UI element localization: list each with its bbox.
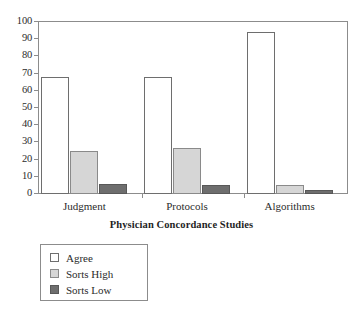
- legend-item[interactable]: Agree: [50, 250, 147, 265]
- y-axis-tick-label: 0: [27, 185, 32, 201]
- legend-item[interactable]: Sorts High: [50, 266, 147, 281]
- bar[interactable]: [305, 190, 333, 194]
- legend: Agree Sorts High Sorts Low: [40, 244, 148, 301]
- x-axis-title: Physician Concordance Studies: [0, 219, 363, 230]
- x-axis-tick-mark: [244, 194, 245, 198]
- y-axis-tick-label: 20: [22, 151, 32, 167]
- y-axis-tick-label: 50: [22, 99, 32, 115]
- bar[interactable]: [144, 77, 172, 194]
- bar-group: [144, 22, 230, 194]
- bar-chart-figure: 0102030405060708090100 JudgmentProtocols…: [0, 0, 363, 317]
- bar[interactable]: [247, 32, 275, 194]
- legend-label: Sorts High: [66, 267, 113, 281]
- bars-layer: [39, 22, 347, 194]
- bar-group: [247, 22, 333, 194]
- legend-label: Agree: [66, 251, 93, 265]
- x-axis-category-label: Protocols: [166, 198, 208, 214]
- bar[interactable]: [70, 151, 98, 194]
- y-axis-tick-label: 70: [22, 65, 32, 81]
- y-axis-tick-label: 80: [22, 47, 32, 63]
- bar[interactable]: [202, 185, 230, 194]
- y-axis-tick-label: 100: [17, 13, 32, 29]
- x-axis-category-label: Algorithms: [265, 198, 315, 214]
- y-axis: 0102030405060708090100: [0, 21, 38, 194]
- bar[interactable]: [173, 148, 201, 194]
- legend-label: Sorts Low: [66, 283, 112, 297]
- bar-group: [41, 22, 127, 194]
- bar[interactable]: [99, 184, 127, 194]
- bar[interactable]: [41, 77, 69, 194]
- y-axis-tick-label: 90: [22, 30, 32, 46]
- bar[interactable]: [276, 185, 304, 194]
- legend-swatch-sorts-high: [50, 269, 59, 278]
- legend-swatch-agree: [50, 253, 59, 262]
- legend-swatch-sorts-low: [50, 285, 59, 294]
- legend-item[interactable]: Sorts Low: [50, 282, 147, 297]
- x-axis-category-labels: JudgmentProtocolsAlgorithms: [39, 198, 347, 216]
- y-axis-tick-label: 30: [22, 133, 32, 149]
- y-axis-tick-label: 10: [22, 168, 32, 184]
- y-axis-tick-label: 40: [22, 116, 32, 132]
- x-axis-tick-mark: [142, 194, 143, 198]
- y-axis-tick-label: 60: [22, 82, 32, 98]
- x-axis-category-label: Judgment: [63, 198, 106, 214]
